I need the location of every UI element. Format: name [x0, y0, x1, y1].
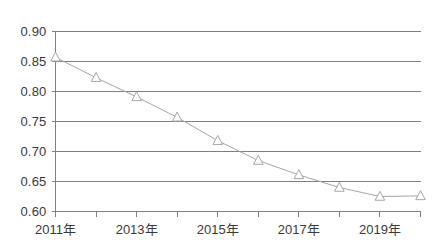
y-axis-tick-label: 0.70 [0, 145, 47, 158]
x-axis-tick-label: 2011年 [35, 223, 76, 236]
data-point-marker [91, 73, 101, 82]
data-line [56, 57, 421, 196]
x-axis-tick-label: 2019年 [359, 223, 401, 236]
data-point-marker [132, 92, 142, 101]
y-axis-tick-label: 0.85 [0, 55, 47, 68]
data-point-marker [416, 191, 426, 200]
data-point-marker [51, 52, 61, 61]
y-axis-tick-label: 0.80 [0, 85, 47, 98]
data-point-marker [253, 155, 263, 164]
data-point-marker [213, 136, 223, 145]
x-axis-tick-label: 2013年 [116, 223, 158, 236]
x-axis-tick-label: 2017年 [278, 223, 320, 236]
data-point-marker [172, 112, 182, 121]
y-axis-tick-label: 0.75 [0, 115, 47, 128]
y-axis-tick-label: 0.60 [0, 205, 47, 218]
chart-plot-area [0, 0, 436, 243]
y-axis-tick-label: 0.90 [0, 25, 47, 38]
line-chart: 0.900.850.800.750.700.650.60 2011年2013年2… [0, 0, 436, 243]
y-axis-tick-label: 0.65 [0, 175, 47, 188]
x-axis-tick-label: 2015年 [197, 223, 239, 236]
